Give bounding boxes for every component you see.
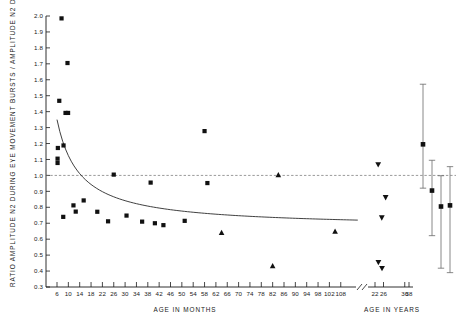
x-axis-month-ticks: 6101418222630343842465054586266707478828… xyxy=(55,282,346,297)
y-tick-label: 1.9 xyxy=(34,28,43,35)
x-tick-month-label: 98 xyxy=(315,290,323,297)
data-point-triangle-down xyxy=(375,162,381,167)
x-tick-month-label: 74 xyxy=(246,290,254,297)
axis-break-mark-left xyxy=(357,284,362,290)
data-point-triangle-up xyxy=(270,263,276,268)
fitted-decay-curve xyxy=(57,120,358,220)
x-axis-year-ticks: 22263638 xyxy=(371,282,413,297)
y-tick-label: 1.6 xyxy=(34,76,43,83)
error-bar-mean-marker xyxy=(421,142,426,147)
y-tick-label: 0.5 xyxy=(34,251,43,258)
data-point-triangle-down xyxy=(379,266,385,271)
x-tick-year-label: 38 xyxy=(405,290,413,297)
data-point-square xyxy=(61,215,65,219)
data-point-square xyxy=(202,129,206,133)
y-tick-label: 0.8 xyxy=(34,203,43,210)
data-point-square xyxy=(82,198,86,202)
data-point-square xyxy=(55,161,59,165)
y-tick-label: 0.3 xyxy=(34,283,43,290)
x-tick-month-label: 42 xyxy=(156,290,164,297)
y-tick-label: 1.5 xyxy=(34,92,43,99)
y-tick-label: 0.9 xyxy=(34,188,43,195)
y-tick-label: 1.2 xyxy=(34,140,43,147)
x-tick-month-label: 90 xyxy=(292,290,300,297)
error-bar-mean-marker xyxy=(430,188,435,193)
data-point-square xyxy=(153,221,157,225)
x-tick-month-label: 6 xyxy=(55,290,59,297)
x-tick-month-label: 46 xyxy=(167,290,175,297)
y-tick-label: 0.7 xyxy=(34,219,43,226)
summary-error-bars xyxy=(420,84,453,272)
data-point-square xyxy=(112,173,116,177)
x-tick-month-label: 22 xyxy=(99,290,107,297)
x-axis-title-months: AGE IN MONTHS xyxy=(154,306,217,313)
x-tick-month-label: 10 xyxy=(65,290,73,297)
data-point-square xyxy=(65,61,69,65)
x-tick-month-label: 66 xyxy=(224,290,232,297)
axis-break-mark-right xyxy=(362,284,367,290)
y-tick-label: 0.4 xyxy=(34,267,43,274)
x-tick-month-label: 78 xyxy=(258,290,266,297)
data-point-triangle-down xyxy=(379,215,385,220)
data-point-triangle-down xyxy=(376,260,382,265)
x-tick-month-label: 86 xyxy=(280,290,288,297)
y-tick-label: 1.8 xyxy=(34,44,43,51)
chart-figure: 2.01.91.81.71.61.51.41.31.21.11.00.90.80… xyxy=(0,0,458,327)
scatter-plot-svg: 2.01.91.81.71.61.51.41.31.21.11.00.90.80… xyxy=(0,0,458,327)
y-axis-ticks: 2.01.91.81.71.61.51.41.31.21.11.00.90.80… xyxy=(34,12,50,290)
data-point-square xyxy=(161,223,165,227)
x-axis-title-years: AGE IN YEARS xyxy=(364,306,420,313)
x-tick-month-label: 62 xyxy=(212,290,220,297)
x-tick-month-label: 54 xyxy=(190,290,198,297)
x-tick-month-label: 38 xyxy=(144,290,152,297)
x-tick-year-label: 26 xyxy=(380,290,388,297)
data-point-square xyxy=(61,143,65,147)
y-tick-label: 2.0 xyxy=(34,12,43,19)
data-point-square xyxy=(205,181,209,185)
data-point-triangle-up xyxy=(276,172,282,177)
error-bar-mean-marker xyxy=(448,203,453,208)
data-point-triangle-up xyxy=(219,230,225,235)
y-tick-label: 1.3 xyxy=(34,124,43,131)
data-point-square xyxy=(149,180,153,184)
data-point-square xyxy=(124,213,128,217)
data-point-square xyxy=(56,146,60,150)
data-point-triangle-down xyxy=(383,195,389,200)
data-markers xyxy=(55,16,388,271)
x-tick-month-label: 30 xyxy=(122,290,130,297)
y-tick-label: 0.6 xyxy=(34,235,43,242)
x-tick-month-label: 82 xyxy=(269,290,277,297)
data-point-triangle-up xyxy=(332,229,338,234)
y-tick-label: 1.0 xyxy=(34,172,43,179)
data-point-square xyxy=(95,210,99,214)
x-tick-month-label: 108 xyxy=(335,290,346,297)
x-tick-year-label: 22 xyxy=(371,290,379,297)
y-tick-label: 1.7 xyxy=(34,60,43,67)
y-axis-title: RATIO AMPLITUDE N2 DURING EYE MOVEMENT B… xyxy=(9,0,16,287)
data-point-square xyxy=(106,219,110,223)
data-point-square xyxy=(71,203,75,207)
data-point-square xyxy=(74,210,78,214)
y-tick-label: 1.1 xyxy=(34,156,43,163)
x-tick-month-label: 18 xyxy=(88,290,96,297)
y-axis-title-text: RATIO AMPLITUDE N2 DURING EYE MOVEMENT B… xyxy=(9,0,16,287)
data-point-square xyxy=(57,99,61,103)
x-tick-month-label: 34 xyxy=(133,290,141,297)
x-tick-month-label: 58 xyxy=(201,290,209,297)
data-point-square xyxy=(183,219,187,223)
data-point-square xyxy=(59,16,63,20)
error-bar-mean-marker xyxy=(439,204,444,209)
data-point-square xyxy=(55,157,59,161)
data-point-square xyxy=(140,220,144,224)
x-tick-month-label: 102 xyxy=(324,290,335,297)
data-point-square xyxy=(66,111,70,115)
x-tick-month-label: 70 xyxy=(235,290,243,297)
x-tick-month-label: 50 xyxy=(178,290,186,297)
x-tick-month-label: 94 xyxy=(303,290,311,297)
y-tick-label: 1.4 xyxy=(34,108,43,115)
x-tick-month-label: 14 xyxy=(76,290,84,297)
x-tick-month-label: 26 xyxy=(110,290,118,297)
